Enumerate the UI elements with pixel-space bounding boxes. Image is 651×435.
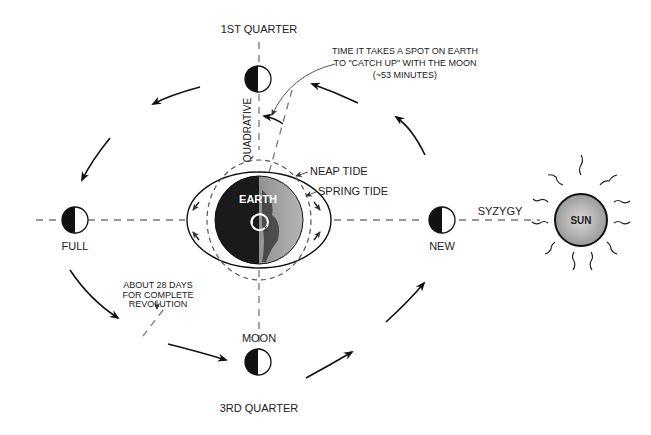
arrow-icon: [386, 283, 424, 322]
arrow-icon: [396, 117, 425, 155]
arrow-icon: [168, 344, 226, 360]
moon-label: MOON: [242, 332, 276, 344]
third-quarter-label: 3RD QUARTER: [220, 402, 299, 414]
small-arrow-icon: [264, 116, 283, 124]
arrow-icon: [82, 138, 110, 180]
neap-tide-label: NEAP TIDE: [310, 165, 368, 177]
tide-diagram: 1ST QUARTER 3RD QUARTER MOON FULL NEW SY…: [0, 0, 651, 435]
new-label: NEW: [429, 240, 455, 252]
spring-tide-label: SPRING TIDE: [318, 185, 388, 197]
revolution-tick-line: [140, 310, 163, 340]
full-label: FULL: [62, 240, 89, 252]
arrow-icon: [70, 270, 118, 318]
moon-first-quarter: [245, 66, 271, 92]
moon-third-quarter: [245, 349, 271, 375]
arrow-icon: [153, 87, 200, 104]
earth-label: EARTH: [239, 193, 277, 205]
moon-new: [429, 207, 455, 233]
quadrative-label: QUADRATIVE: [242, 98, 253, 163]
arrow-icon: [306, 352, 352, 378]
catch-up-line-3: (~53 MINUTES): [373, 70, 437, 80]
neap-pointer-icon: [296, 172, 308, 176]
sun-icon: [532, 155, 630, 270]
earth-group: [187, 160, 331, 280]
lag-line: [267, 90, 292, 180]
arrow-icon: [312, 84, 358, 103]
moon-full: [62, 207, 88, 233]
sun-label: SUN: [570, 215, 591, 226]
syzygy-label: SYZYGY: [478, 205, 523, 217]
catch-up-line-1: TIME IT TAKES A SPOT ON EARTH: [332, 46, 478, 56]
revolution-line-3: REVOLUTION: [129, 299, 188, 309]
catch-up-line-2: TO "CATCH UP" WITH THE MOON: [334, 58, 477, 68]
first-quarter-label: 1ST QUARTER: [221, 23, 298, 35]
revolution-line-1: ABOUT 28 DAYS: [123, 280, 193, 290]
